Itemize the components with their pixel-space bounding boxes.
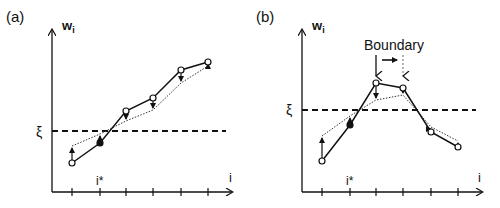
weight-point xyxy=(178,67,184,73)
panel-b-x-label: i xyxy=(478,170,481,185)
weight-point xyxy=(123,108,129,114)
panel-b-label: (b) xyxy=(256,8,274,25)
panel-b-y-label: wi xyxy=(311,18,325,35)
weight-point xyxy=(400,85,406,91)
istar-point xyxy=(347,122,353,128)
weight-point xyxy=(455,144,461,150)
panel-a-threshold-label: ξ xyxy=(36,124,42,140)
panel-a xyxy=(52,30,232,196)
panel-a-y-label: wi xyxy=(61,18,75,35)
panel-b xyxy=(302,30,482,196)
updated-weights-line xyxy=(72,66,208,146)
boundary-label: Boundary xyxy=(364,37,424,53)
weight-point xyxy=(69,160,75,166)
weight-point xyxy=(428,129,434,135)
panel-a-x-label: i xyxy=(229,170,232,185)
weights-line xyxy=(72,62,208,163)
istar-point xyxy=(97,140,103,146)
weight-point xyxy=(150,95,156,101)
panel-b-threshold-label: ξ xyxy=(286,102,292,118)
panel-a-istar-label: i* xyxy=(96,174,104,188)
weight-point xyxy=(373,80,379,86)
weight-point xyxy=(319,158,325,164)
weight-point xyxy=(205,59,211,65)
panel-b-istar-label: i* xyxy=(346,174,354,188)
diagram-canvas: (a) wi i ξ i* (b) wi i ξ i* Boundary xyxy=(0,0,500,208)
panel-a-label: (a) xyxy=(6,8,24,25)
